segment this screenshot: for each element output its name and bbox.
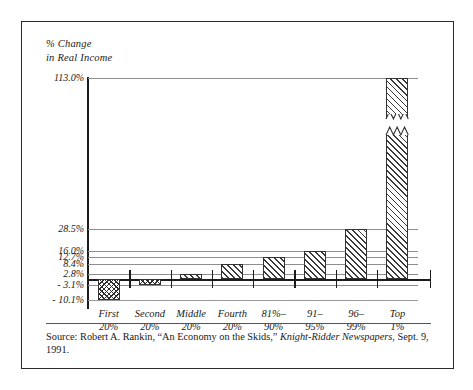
x-axis-tick-label-line1: First [98, 308, 118, 319]
bar [386, 78, 408, 279]
source-divider [46, 323, 431, 324]
x-axis-tick [377, 270, 378, 288]
x-axis-tick-label-line1: 96– [348, 308, 364, 319]
bar [263, 257, 285, 279]
gridline [88, 229, 418, 230]
y-axis-tick-label: - 10.1% [52, 295, 84, 305]
x-axis-tick-label-line1: 81%– [261, 308, 286, 319]
bar [180, 274, 202, 279]
gridline [88, 78, 418, 79]
bar [304, 251, 326, 279]
x-axis-tick-label-line1: Middle [176, 308, 206, 319]
bar [221, 264, 243, 279]
bar [139, 279, 161, 285]
x-axis-tick-label-line1: Second [135, 308, 165, 319]
gridline [88, 300, 418, 301]
x-axis-end-cap [430, 270, 431, 288]
y-axis-tick-label: 113.0% [54, 73, 84, 83]
x-axis-tick-label-line1: Top [390, 308, 405, 319]
source-prefix: Source: Robert A. Rankin, “An Economy on… [46, 331, 280, 342]
y-axis-tick-label: 28.5% [58, 224, 84, 234]
y-axis-tick-label: - 3.1% [57, 280, 84, 290]
x-axis-tick-label-line1: Fourth [218, 308, 247, 319]
y-axis-tick-label: 2.8% [63, 269, 84, 279]
gridline [88, 257, 418, 258]
source-note: Source: Robert A. Rankin, “An Economy on… [46, 330, 438, 356]
gridline [88, 251, 418, 252]
x-axis-tick-label-line1: 91– [307, 308, 323, 319]
gridline [88, 264, 418, 265]
bar [98, 279, 120, 300]
bar [345, 229, 367, 279]
x-axis-tick [294, 270, 295, 288]
x-axis-tick [129, 270, 130, 288]
figure-frame: % Changein Real Income 113.0%28.5%16.0%1… [21, 21, 454, 369]
x-axis-tick [253, 270, 254, 288]
x-axis-tick [212, 270, 213, 288]
x-axis-tick [336, 270, 337, 288]
source-publication: Knight-Ridder Newspapers [280, 331, 392, 342]
x-axis-tick [171, 270, 172, 288]
y-axis-tick-labels: 113.0%28.5%16.0%12.7%8.4%2.8%- 3.1%- 10.… [22, 22, 84, 342]
